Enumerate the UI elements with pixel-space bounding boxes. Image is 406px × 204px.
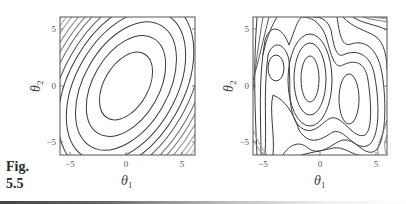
left-xtick-0: 0 <box>124 159 129 169</box>
right-xtick-neg5: −5 <box>258 159 268 169</box>
right-contour-plot: −5 0 5 5 0 −5 θ1 θ2 <box>203 0 406 200</box>
left-ylabel: θ2 <box>28 81 45 92</box>
right-ytick-5: 5 <box>245 24 250 34</box>
right-xtick-5: 5 <box>374 159 379 169</box>
bottom-divider <box>0 201 406 204</box>
left-xlabel: θ1 <box>121 173 132 190</box>
right-ytick-0: 0 <box>245 81 250 91</box>
right-ylabel: θ2 <box>221 81 238 92</box>
left-ytick-neg5: −5 <box>46 137 56 147</box>
right-xtick-0: 0 <box>318 159 323 169</box>
right-ytick-neg5: −5 <box>239 137 249 147</box>
left-xtick-5: 5 <box>180 159 185 169</box>
left-xtick-neg5: −5 <box>65 159 75 169</box>
left-contour-plot: −5 0 5 5 0 −5 θ1 θ2 <box>0 0 203 200</box>
left-ytick-5: 5 <box>52 24 57 34</box>
right-xlabel: θ1 <box>314 173 325 190</box>
left-ytick-0: 0 <box>52 81 57 91</box>
